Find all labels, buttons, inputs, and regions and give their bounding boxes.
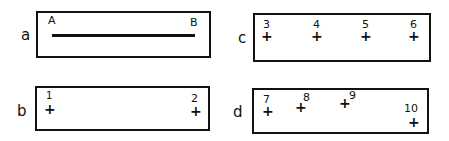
plus-marker-10: + xyxy=(408,115,420,129)
point-label-1: 1 xyxy=(46,91,52,101)
point-label-10: 10 xyxy=(404,103,418,114)
plus-marker-4: + xyxy=(311,29,323,43)
plus-marker-5: + xyxy=(360,29,372,43)
panel-d-label: d xyxy=(233,105,243,120)
plus-marker-2: + xyxy=(190,104,202,118)
panel-c-label: c xyxy=(238,31,246,46)
line-segment-ab xyxy=(52,34,195,37)
point-label-b: B xyxy=(190,17,198,28)
plus-marker-6: + xyxy=(408,29,420,43)
plus-marker-3: + xyxy=(261,29,273,43)
point-label-a: A xyxy=(48,15,56,26)
panel-b xyxy=(35,86,210,131)
panel-b-label: b xyxy=(17,104,27,119)
plus-marker-1: + xyxy=(44,102,56,116)
panel-c xyxy=(253,13,431,62)
plus-marker-9: + xyxy=(339,96,351,110)
plus-marker-8: + xyxy=(295,100,307,114)
plus-marker-7: + xyxy=(262,104,274,118)
panel-a-label: a xyxy=(21,28,30,43)
